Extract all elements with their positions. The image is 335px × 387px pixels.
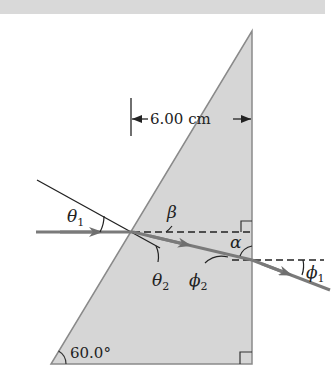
theta1-arc <box>100 216 104 232</box>
phi1-arc <box>302 260 304 275</box>
prism-refraction-diagram: 60.0° 6.00 cm θ1 θ2 ϕ2 ϕ1 α β <box>0 0 335 387</box>
alpha-label: α <box>230 232 242 252</box>
prism-angle-label: 60.0° <box>70 344 111 362</box>
dimension-label: 6.00 cm <box>150 110 211 128</box>
phi1-label: ϕ1 <box>306 262 325 285</box>
beta-label: β <box>166 202 177 222</box>
theta1-label: θ1 <box>67 206 84 229</box>
emergent-ray-arrow-icon <box>262 264 286 273</box>
prism <box>51 31 252 364</box>
